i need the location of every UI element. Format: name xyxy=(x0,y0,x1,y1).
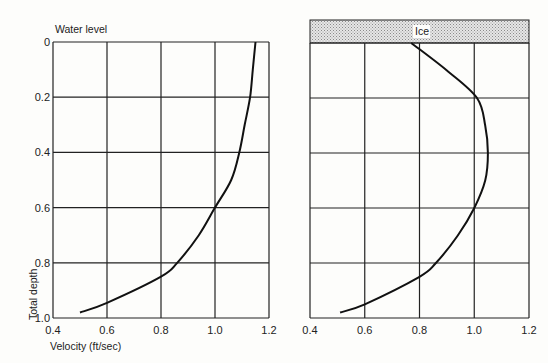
y-axis-label: Total depth xyxy=(27,268,39,320)
x-tick-label: 0.6 xyxy=(99,324,114,336)
x-tick-label: 0.8 xyxy=(412,324,427,336)
x-tick-label: 0.8 xyxy=(153,324,168,336)
x-tick-label: 0.4 xyxy=(45,324,60,336)
ice-label: Ice xyxy=(415,25,429,37)
x-tick-label: 0.6 xyxy=(357,324,372,336)
velocity-depth-figure: Water level 00.20.40.60.81.0 0.40.60.81.… xyxy=(0,0,548,363)
y-tick-label: 0.6 xyxy=(35,202,50,214)
left-x-tick-labels: 0.40.60.81.01.2 xyxy=(45,324,276,336)
right-velocity-curve xyxy=(340,43,488,313)
x-tick-label: 0.4 xyxy=(302,324,317,336)
y-tick-label: 0.8 xyxy=(35,257,50,269)
x-tick-label: 1.2 xyxy=(521,324,536,336)
x-tick-label: 1.0 xyxy=(207,324,222,336)
y-tick-label: 0 xyxy=(44,36,50,48)
x-tick-label: 1.0 xyxy=(467,324,482,336)
left-velocity-curve xyxy=(80,42,256,313)
y-tick-label: 0.2 xyxy=(35,91,50,103)
y-tick-label: 0.4 xyxy=(35,146,50,158)
water-level-label: Water level xyxy=(55,23,107,35)
x-axis-label: Velocity (ft/sec) xyxy=(50,340,121,352)
left-panel: Water level 00.20.40.60.81.0 0.40.60.81.… xyxy=(27,23,277,352)
x-tick-label: 1.2 xyxy=(261,324,276,336)
right-x-tick-labels: 0.40.60.81.01.2 xyxy=(302,324,536,336)
right-panel: Ice 0.40.60.81.01.2 xyxy=(302,20,536,336)
